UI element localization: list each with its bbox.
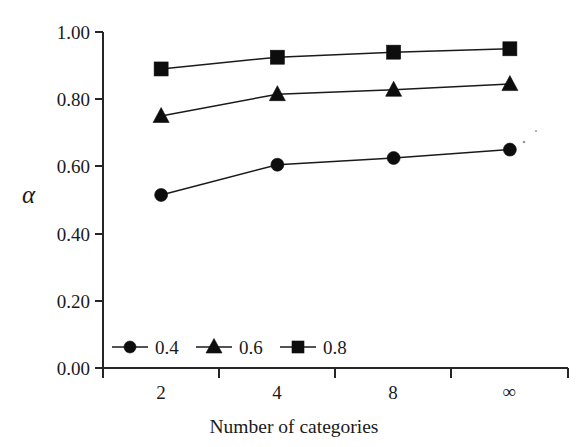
- scan-speck-icon: [523, 141, 526, 144]
- square-marker: [292, 341, 304, 353]
- square-marker: [270, 50, 284, 64]
- square-marker: [154, 62, 168, 76]
- scan-speck-icon: [535, 130, 537, 132]
- x-tick-label-8: 8: [388, 382, 398, 403]
- circle-marker: [155, 188, 168, 201]
- y-tick-label-0.60: 0.60: [57, 156, 90, 177]
- y-tick-label-0.20: 0.20: [57, 291, 90, 312]
- x-tick-label-2: 2: [156, 382, 166, 403]
- square-marker: [387, 45, 401, 59]
- chart-svg: 1.00 0.80 0.60 0.40 0.20 0.00 α 2 4 8 ∞ …: [0, 0, 588, 447]
- y-tick-label-1.00: 1.00: [57, 22, 90, 43]
- legend-label-0.4: 0.4: [155, 337, 179, 358]
- y-tick-label-0.40: 0.40: [57, 224, 90, 245]
- circle-marker: [124, 341, 136, 353]
- chart-figure: 1.00 0.80 0.60 0.40 0.20 0.00 α 2 4 8 ∞ …: [0, 0, 588, 447]
- circle-marker: [271, 158, 284, 171]
- y-tick-label-0.00: 0.00: [57, 358, 90, 379]
- legend-label-0.8: 0.8: [323, 337, 347, 358]
- x-tick-label-infinity: ∞: [502, 381, 516, 402]
- x-axis-title: Number of categories: [210, 416, 379, 437]
- y-axis-title: α: [22, 181, 36, 208]
- circle-marker: [387, 152, 400, 165]
- y-tick-label-0.80: 0.80: [57, 89, 90, 110]
- legend-label-0.6: 0.6: [239, 337, 263, 358]
- square-marker: [503, 42, 517, 56]
- circle-marker: [503, 143, 516, 156]
- x-tick-label-4: 4: [272, 382, 282, 403]
